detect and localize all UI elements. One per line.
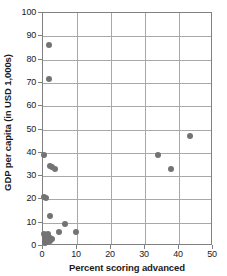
data-point [56, 229, 62, 235]
data-point [73, 229, 79, 235]
y-axis-tick-mark [38, 198, 42, 199]
y-axis-tick-label: 0 [31, 240, 36, 250]
x-axis-tick-label: 50 [207, 249, 217, 259]
x-axis-tick-label: 0 [40, 249, 45, 259]
y-axis-tick-label: 60 [26, 100, 36, 110]
y-axis-tick-mark [38, 82, 42, 83]
data-point [187, 133, 193, 139]
y-axis-tick-label: 50 [26, 124, 36, 134]
y-axis-tick-mark [38, 59, 42, 60]
data-point [43, 195, 49, 201]
x-axis-title: Percent scoring advanced [42, 262, 212, 273]
y-axis-tick-label: 100 [22, 7, 36, 17]
y-axis-tick-label: 70 [26, 77, 36, 87]
data-point [41, 152, 47, 158]
data-point-layer [43, 13, 211, 244]
data-point [46, 76, 52, 82]
y-axis-tick-label: 10 [26, 217, 36, 227]
y-axis-tick-mark [38, 152, 42, 153]
x-axis-tick-label: 20 [105, 249, 115, 259]
data-point [155, 152, 161, 158]
y-axis-title-text: GDP per capita (in USD 1,000s) [2, 54, 13, 191]
y-axis-tick-mark [38, 129, 42, 130]
y-axis-tick-mark [38, 222, 42, 223]
y-axis-tick-label: 20 [26, 193, 36, 203]
y-axis-tick-label: 30 [26, 170, 36, 180]
data-point [52, 166, 58, 172]
y-axis-tick-label: 40 [26, 147, 36, 157]
plot-area [42, 12, 212, 245]
y-axis-tick-mark [38, 12, 42, 13]
y-axis-tick-label: 90 [26, 30, 36, 40]
data-point [47, 213, 53, 219]
x-axis-tick-label: 10 [71, 249, 81, 259]
x-axis-tick-label: 40 [173, 249, 183, 259]
y-axis-tick-label: 80 [26, 54, 36, 64]
data-point [62, 221, 68, 227]
y-axis-tick-mark [38, 105, 42, 106]
y-axis-tick-mark [38, 35, 42, 36]
y-axis-tick-labels: 0102030405060708090100 [14, 12, 39, 245]
y-axis-title: GDP per capita (in USD 1,000s) [0, 0, 14, 245]
x-axis-tick-label: 30 [139, 249, 149, 259]
y-axis-tick-mark [38, 175, 42, 176]
x-axis-tick-labels: 01020304050 [42, 249, 212, 263]
data-point [47, 238, 53, 244]
data-point [46, 42, 52, 48]
data-point [168, 166, 174, 172]
scatter-chart: GDP per capita (in USD 1,000s) 010203040… [0, 0, 227, 276]
